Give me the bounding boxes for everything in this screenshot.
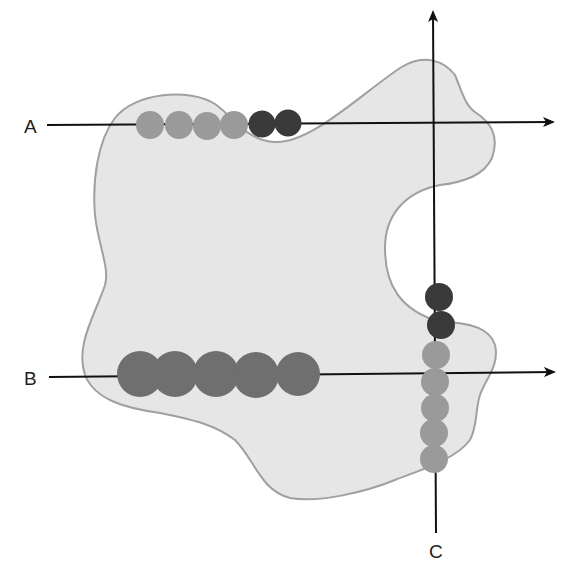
diagram-canvas: A B C (0, 0, 580, 585)
label-c: C (429, 541, 443, 562)
beads-line-b (117, 351, 320, 398)
label-a: A (24, 116, 37, 137)
label-b: B (24, 368, 37, 389)
